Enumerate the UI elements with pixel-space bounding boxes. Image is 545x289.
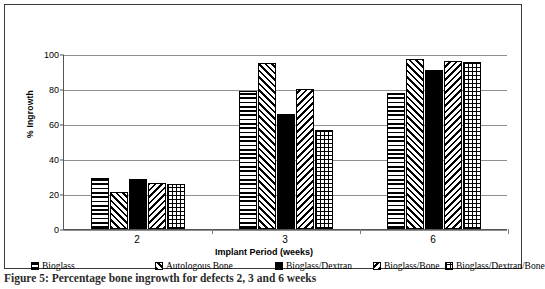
bar-group — [64, 55, 212, 229]
legend-swatch-icon — [155, 262, 163, 270]
legend-label: Bioglass/Bone — [384, 261, 439, 271]
legend-swatch-icon — [275, 262, 283, 270]
figure-frame: % Ingrowth 020406080100 Implant Period (… — [4, 4, 522, 269]
y-tick-mark — [60, 230, 64, 231]
bar-group — [212, 55, 360, 229]
bar — [148, 183, 167, 229]
legend-label: Bioglass/Dextran/Bone — [456, 261, 545, 271]
legend-label: Bioglass/Dextran — [286, 261, 352, 271]
bar — [296, 89, 315, 229]
x-tick-label: 3 — [282, 234, 288, 245]
x-axis-separator — [212, 229, 213, 234]
bar-chart: % Ingrowth 020406080100 Implant Period (… — [5, 5, 523, 270]
bar — [239, 91, 258, 229]
y-axis-title: % Ingrowth — [25, 69, 35, 159]
x-axis-separator — [508, 229, 509, 234]
y-tick-label: 20 — [49, 190, 59, 200]
bar — [387, 93, 406, 230]
legend-item: Bioglass — [31, 261, 75, 271]
bar — [425, 70, 444, 229]
chart-legend: BioglassAutologous BoneBioglass/DextranB… — [5, 259, 523, 272]
bar — [129, 179, 148, 229]
x-tick-label: 2 — [134, 234, 140, 245]
bar-group — [360, 55, 508, 229]
bar — [277, 114, 296, 230]
bar — [315, 130, 334, 229]
y-tick-label: 40 — [49, 155, 59, 165]
gridline — [64, 230, 507, 231]
bar — [406, 59, 425, 229]
bar — [258, 63, 277, 229]
bar — [463, 62, 482, 229]
x-tick-label: 6 — [430, 234, 436, 245]
bar — [167, 184, 186, 230]
plot-area: 020406080100 — [63, 55, 507, 230]
figure-caption: Figure 5: Percentage bone ingrowth for d… — [4, 272, 524, 287]
bar — [110, 192, 129, 229]
bar — [444, 61, 463, 229]
legend-label: Bioglass — [42, 261, 75, 271]
legend-swatch-icon — [31, 262, 39, 270]
legend-swatch-icon — [445, 262, 453, 270]
x-axis-title: Implant Period (weeks) — [5, 247, 523, 257]
bar — [91, 178, 110, 229]
legend-swatch-icon — [373, 262, 381, 270]
legend-label: Autologous Bone — [166, 261, 233, 271]
x-axis-separator — [360, 229, 361, 234]
y-tick-label: 100 — [44, 50, 59, 60]
legend-item: Bioglass/Dextran/Bone — [445, 261, 545, 271]
y-tick-label: 0 — [54, 225, 59, 235]
legend-item: Bioglass/Dextran — [275, 261, 352, 271]
legend-item: Autologous Bone — [155, 261, 233, 271]
y-tick-label: 60 — [49, 120, 59, 130]
legend-item: Bioglass/Bone — [373, 261, 439, 271]
y-tick-label: 80 — [49, 85, 59, 95]
